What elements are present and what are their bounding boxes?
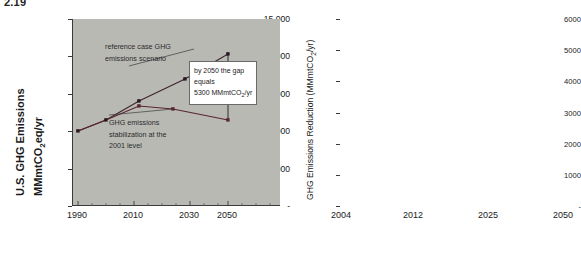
marker-stab-2050 [226,118,229,121]
right-chart-xtick-2012: 2012 [403,210,423,220]
annotation-stabilization-line2: stabilization at the [109,129,167,141]
left-chart-xtick-2010: 2010 [123,210,143,220]
annotation-stabilization-line3: 2001 level [109,140,167,152]
left-chart-xtick-1990: 1990 [67,210,87,220]
annotation-stabilization-line1: GHG emissions [109,117,167,129]
left-chart-xtick-2030: 2030 [179,210,199,220]
right-chart-xtick-2025: 2025 [478,210,498,220]
right-chart-ytick-4000: 4000 [537,77,581,86]
right-chart-ytick-2000: 2000 [537,139,581,148]
right-chart-ytick-1000: 1000 [537,170,581,179]
right-chart-ytick-mark-1000 [336,175,340,176]
chart-panel-us-ghg-emissions: U.S. GHG Emissions MMmtCO2eq/yr - 3000 6… [0,0,290,256]
right-chart-ytick-mark-4000 [336,81,340,82]
marker-ref-2050 [226,52,229,55]
left-chart-plot-area: reference case GHG emissions scenario GH… [72,19,280,206]
left-chart-xtick-2050: 2050 [217,210,237,220]
right-chart-ytick-5000: 5000 [537,46,581,55]
right-chart-ytick-mark-3000 [336,113,340,114]
right-chart-xtick-2004: 2004 [331,210,351,220]
right-chart-ytick-6000: 6000 [537,15,581,24]
left-chart-y-axis-label-sub: MMmtCO2eq/yr [32,117,48,196]
left-chart-y-axis-label-line2: MMmtCO2eq/yr [32,117,44,196]
marker-ref-2012 [137,99,140,102]
callout-gap-line3: 5300 MMmtCO2/yr [194,87,252,100]
annotation-reference-case-line2: emissions scenario [105,53,171,65]
leader-line-stabilization [109,109,173,115]
marker-ref-2000 [104,118,107,121]
callout-gap-line1: by 2050 the gap [194,65,252,76]
marker-ref-2030 [183,77,186,80]
left-chart-ytick-mark-0 [68,206,72,207]
right-chart-ytick-mark-0 [336,206,340,207]
annotation-reference-case: reference case GHG emissions scenario [105,41,171,64]
callout-gap-2050: by 2050 the gap equals 5300 MMmtCO2/yr [189,61,257,105]
right-chart-xtick-2050: 2050 [553,210,573,220]
left-chart-y-axis-label: U.S. GHG Emissions [14,88,27,196]
callout-gap-line2: equals [194,76,252,87]
right-chart-ytick-mark-2000 [336,144,340,145]
right-chart-ytick-mark-5000 [336,50,340,51]
chart-panel-ghg-emissions-reduction: GHG Emissions Reduction (MMmtCO2/yr) - 1… [290,0,581,256]
marker-stab-2012 [137,104,140,107]
marker-ref-1990 [76,129,79,132]
right-chart-ytick-mark-6000 [336,19,340,20]
annotation-reference-case-line1: reference case GHG [105,41,171,53]
left-chart-y-axis-label-line1: U.S. GHG Emissions [14,88,26,196]
right-chart-ytick-3000: 3000 [537,108,581,117]
right-chart-y-axis-label: GHG Emissions Reduction (MMmtCO2/yr) [305,40,317,200]
annotation-stabilization: GHG emissions stabilization at the 2001 … [109,117,167,152]
left-chart-minor-ticks [78,201,270,206]
